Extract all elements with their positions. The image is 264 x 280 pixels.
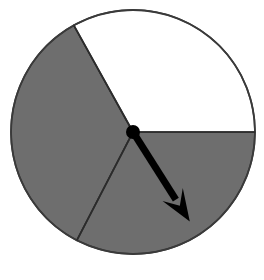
spinner-arrow-hub (126, 125, 140, 139)
spinner-svg (0, 0, 264, 280)
spinner-figure (0, 0, 264, 280)
